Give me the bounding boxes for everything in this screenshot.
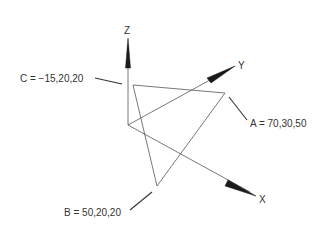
x-axis-label: X [259,194,266,205]
x-arrowhead-icon [225,180,256,196]
leader-lines [95,78,247,210]
coordinate-diagram: Z Y X A = 70,30,50 B = 50,20,20 C = −15,… [0,0,330,230]
leader-b [130,192,152,210]
y-arrowhead-icon [207,66,235,83]
z-arrowhead-icon [126,38,131,68]
z-axis-label: Z [124,25,130,36]
point-c-label: C = −15,20,20 [20,73,84,84]
axes [128,45,250,192]
point-a-label: A = 70,30,50 [250,118,307,129]
leader-a [229,97,247,120]
y-axis-label: Y [238,60,245,71]
leader-c [95,78,122,84]
axis-arrowheads [126,38,257,196]
point-b-label: B = 50,20,20 [64,207,121,218]
